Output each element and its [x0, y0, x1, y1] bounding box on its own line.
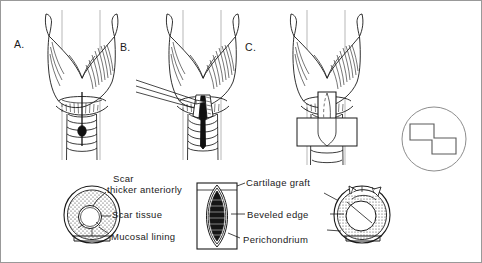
step-graft-inset-artwork — [402, 107, 466, 171]
label-beveled-edge: Beveled edge — [247, 209, 309, 221]
label-scar-tissue: Scar tissue — [112, 209, 162, 221]
label-scar-thicker-anteriorly-line1: Scar — [113, 173, 134, 185]
label-scar-thicker-anteriorly-line2: thicker anteriorly — [107, 184, 182, 196]
illustration-artwork — [0, 0, 482, 263]
panel-letter-c: C. — [245, 41, 256, 53]
label-cartilage-graft: Cartilage graft — [246, 177, 310, 189]
medical-illustration-figure: A. B. C. Scar thicker anteriorly Scar ti… — [0, 0, 482, 263]
panel-letter-b: B. — [120, 41, 131, 53]
label-mucosal-lining: Mucosal lining — [111, 231, 175, 243]
panel-letter-a: A. — [14, 38, 25, 50]
label-perichondrium: Perichondrium — [243, 234, 308, 246]
